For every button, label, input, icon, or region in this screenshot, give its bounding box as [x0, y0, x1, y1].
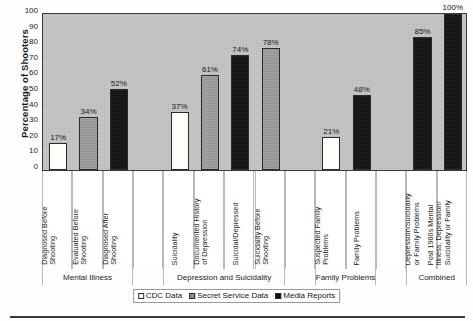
bar-11: 100% — [444, 14, 462, 170]
bar-value-label-10: 85% — [414, 27, 430, 36]
category-label-text: Post 1980s MentalIllness, Depression/Sui… — [427, 200, 452, 265]
bar-6: 74% — [231, 55, 249, 170]
legend-item-media: Media Reports — [275, 291, 335, 300]
y-tick-30: 30 — [29, 116, 38, 124]
category-label-3: Diagnosed AfterShooting — [103, 171, 133, 269]
category-label-5: Documented Historyof Depression — [194, 171, 224, 269]
y-tick-100: 100 — [25, 7, 38, 15]
group-label-family-problems: Family Problems — [315, 269, 376, 285]
category-label-text: Evaluated BeforeShooting — [71, 209, 88, 265]
category-label-text: Documented Historyof Depression — [193, 199, 210, 265]
y-tick-10: 10 — [29, 147, 38, 155]
category-spacer — [133, 171, 163, 269]
category-label-band: Diagnosed BeforeShootingEvaluated Before… — [42, 171, 467, 269]
category-label-9: Family Problems — [346, 171, 376, 269]
legend-swatch-icon-ss — [189, 293, 195, 299]
legend-label: Media Reports — [283, 291, 335, 300]
plot-background-texture — [43, 14, 466, 170]
y-tick-90: 90 — [29, 23, 38, 31]
category-label-text: Diagnosed BeforeShooting — [41, 207, 58, 265]
y-axis-tick-labels: 1009080706050403020100 — [12, 10, 38, 170]
bar-3: 52% — [110, 89, 128, 170]
bar-value-label-5: 61% — [202, 65, 218, 74]
category-label-text: Suicidality — [171, 232, 179, 265]
legend-swatch-icon-media — [275, 293, 281, 299]
bottom-rule — [10, 316, 465, 318]
bar-5: 61% — [201, 75, 219, 170]
group-label-combined: Combined — [406, 269, 467, 285]
bar-10: 85% — [413, 37, 431, 170]
legend-label: Secret Service Data — [197, 291, 268, 300]
legend-item-ss: Secret Service Data — [189, 291, 268, 300]
category-label-2: Evaluated BeforeShooting — [72, 171, 102, 269]
y-tick-60: 60 — [29, 69, 38, 77]
category-label-4: Suicidality — [163, 171, 193, 269]
bar-value-label-11: 100% — [443, 3, 463, 12]
category-label-1: Diagnosed BeforeShooting — [42, 171, 72, 269]
category-label-8: Suspected FamilyProblems — [315, 171, 345, 269]
category-label-11: Post 1980s MentalIllness, Depression/Sui… — [437, 171, 467, 269]
category-spacer — [376, 171, 406, 269]
bar-value-label-7: 78% — [263, 38, 279, 47]
bar-7: 78% — [262, 48, 280, 170]
bar-1: 17% — [49, 143, 67, 170]
group-label-row: Mental IllnessDepression and Suicidality… — [42, 269, 467, 285]
bar-value-label-1: 17% — [50, 133, 66, 142]
bar-value-label-4: 37% — [172, 102, 188, 111]
category-label-text: Diagnosed AfterShooting — [102, 213, 119, 265]
y-tick-80: 80 — [29, 38, 38, 46]
group-label-mental-illness: Mental Illness — [42, 269, 133, 285]
plot-area: 17%34%52%37%61%74%78%21%48%85%100% — [42, 13, 467, 171]
bar-value-label-8: 21% — [323, 127, 339, 136]
bar-value-label-6: 74% — [232, 45, 248, 54]
bar-value-label-3: 52% — [111, 79, 127, 88]
legend-label: CDC Data — [146, 291, 182, 300]
category-label-text: Family Problems — [353, 211, 361, 265]
category-label-7: Suicidality BeforeShooting — [255, 171, 285, 269]
bar-value-label-2: 34% — [81, 107, 97, 116]
bar-9: 48% — [353, 95, 371, 170]
y-tick-0: 0 — [34, 163, 38, 171]
legend-item-cdc: CDC Data — [138, 291, 182, 300]
bar-2: 34% — [79, 117, 97, 170]
category-label-text: Suicidal/Depressed — [231, 202, 239, 265]
y-tick-70: 70 — [29, 54, 38, 62]
category-label-6: Suicidal/Depressed — [224, 171, 254, 269]
bar-value-label-9: 48% — [354, 85, 370, 94]
category-spacer — [285, 171, 315, 269]
bar-8: 21% — [322, 137, 340, 170]
y-tick-40: 40 — [29, 101, 38, 109]
legend-swatch-icon-cdc — [138, 293, 144, 299]
y-tick-20: 20 — [29, 132, 38, 140]
category-label-text: Suspected FamilyProblems — [314, 207, 331, 265]
category-label-text: Suicidality BeforeShooting — [253, 209, 270, 265]
chart-legend: CDC DataSecret Service DataMedia Reports — [133, 289, 341, 303]
bar-chart: Percentage of Shooters 10090807060504030… — [0, 0, 473, 321]
group-label-depression-and-suicidality: Depression and Suicidality — [163, 269, 284, 285]
bar-4: 37% — [171, 112, 189, 170]
y-tick-50: 50 — [29, 85, 38, 93]
